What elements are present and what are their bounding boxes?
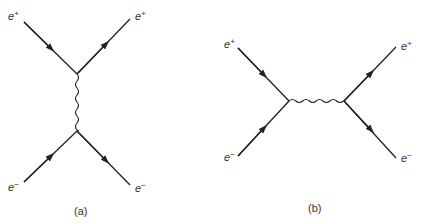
label-b-bottom-left: e− xyxy=(224,150,235,163)
label-b-bottom-right: e− xyxy=(401,151,412,164)
label-a-bottom-left: e− xyxy=(8,180,19,193)
line-a-top-left xyxy=(24,22,77,74)
photon-b xyxy=(289,100,344,103)
diagram-a: e+ e+ e− e− (a) xyxy=(8,9,146,217)
line-b-bottom-left xyxy=(238,101,289,156)
line-a-bottom-left xyxy=(24,131,77,182)
label-a-top-left: e+ xyxy=(8,9,19,22)
label-b-top-left: e+ xyxy=(224,37,235,50)
label-a-bottom-right: e− xyxy=(135,181,146,194)
line-a-top-right xyxy=(77,19,130,74)
caption-a: (a) xyxy=(74,205,87,217)
line-b-top-right xyxy=(344,47,396,101)
photon-a xyxy=(76,74,79,131)
line-b-bottom-right xyxy=(344,101,396,158)
line-b-top-left xyxy=(238,48,289,101)
diagram-b: e+ e− e+ e− (b) xyxy=(224,37,412,214)
label-b-top-right: e+ xyxy=(401,39,412,52)
feynman-diagrams: e+ e+ e− e− (a) e+ e− e+ e− (b) xyxy=(0,0,422,224)
label-a-top-right: e+ xyxy=(135,9,146,22)
caption-b: (b) xyxy=(308,202,321,214)
line-a-bottom-right xyxy=(77,131,130,185)
